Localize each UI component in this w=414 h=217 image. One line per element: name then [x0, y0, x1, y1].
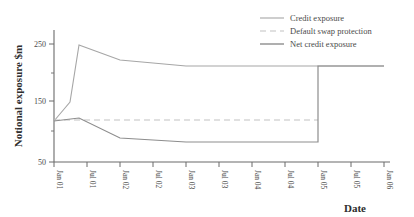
legend-label-default-swap-protection: Default swap protection: [290, 26, 372, 36]
x-tick-label-5: Jul 03: [220, 170, 229, 188]
y-tick-label-150: 150: [34, 97, 46, 106]
y-axis-title: Notional exposure $m: [12, 45, 24, 147]
y-tick-label-250: 250: [34, 40, 46, 49]
y-tick-label-50: 50: [38, 158, 46, 167]
x-tick-label-1: Jul 01: [88, 170, 97, 188]
chart-figure: 250 150 50 Notional exposure $m Jan 01 J…: [0, 0, 414, 217]
x-tick-label-10: Jan 06: [385, 170, 394, 190]
x-tick-label-4: Jan 03: [187, 170, 196, 190]
x-tick-label-7: Jul 04: [286, 170, 295, 188]
chart-legend: Credit exposure Default swap protection …: [260, 13, 372, 49]
series-net-credit-exposure: [54, 66, 384, 142]
chart-canvas: 250 150 50 Notional exposure $m Jan 01 J…: [0, 0, 414, 217]
legend-label-credit-exposure: Credit exposure: [290, 13, 344, 23]
legend-label-net-credit-exposure: Net credit exposure: [290, 39, 357, 49]
x-tick-label-2: Jan 02: [121, 170, 130, 190]
x-tick-label-0: Jan 01: [55, 170, 64, 190]
x-tick-label-8: Jan 05: [319, 170, 328, 190]
x-tick-label-9: Jul 05: [352, 170, 361, 188]
x-tick-label-6: Jan 04: [253, 170, 262, 190]
x-axis-title: Date: [344, 202, 366, 214]
x-tick-label-3: Jul 02: [154, 170, 163, 188]
series-credit-exposure: [54, 45, 384, 121]
